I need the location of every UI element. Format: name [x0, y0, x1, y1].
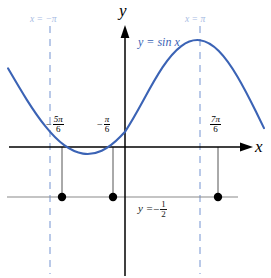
tick-fraction: π6	[104, 115, 111, 135]
asymptote-label-right: x = π	[185, 15, 205, 25]
x-axis-arrow-icon	[240, 143, 253, 152]
sine-curve	[8, 40, 264, 154]
intersection-point-7pi-over-6	[214, 193, 222, 201]
sine-graph-figure: y x y = sin x x = −π x = π −5π6 −π6 7π6 …	[0, 0, 271, 278]
hline-denominator: 2	[160, 210, 167, 219]
tick-denominator: 6	[210, 125, 221, 134]
x-axis-label: x	[255, 138, 263, 155]
tick-denominator: 6	[53, 125, 64, 134]
y-axis-label: y	[119, 2, 127, 19]
tick-minus-sign: −	[46, 120, 53, 130]
plot-canvas	[0, 0, 271, 278]
tick-fraction: 5π6	[53, 115, 64, 135]
tick-minus-sign: −	[97, 120, 104, 130]
hline-label: y =−12	[138, 200, 167, 220]
hline-label-lhs: y =	[138, 202, 153, 214]
tick-label-7pi-over-6: 7π6	[209, 115, 221, 135]
curve-label: y = sin x	[138, 36, 180, 48]
tick-label-neg-5pi-over-6: −5π6	[46, 115, 64, 135]
intersection-point-neg-pi-over-6	[109, 193, 117, 201]
tick-label-neg-pi-over-6: −π6	[97, 115, 110, 135]
asymptote-label-left: x = −π	[30, 15, 57, 25]
tick-fraction: 7π6	[210, 115, 221, 135]
hline-fraction: 12	[160, 200, 167, 220]
y-axis-arrow-icon	[121, 25, 130, 38]
intersection-point-neg-5pi-over-6	[58, 193, 66, 201]
hline-minus-sign: −	[153, 204, 160, 215]
tick-denominator: 6	[104, 125, 111, 134]
